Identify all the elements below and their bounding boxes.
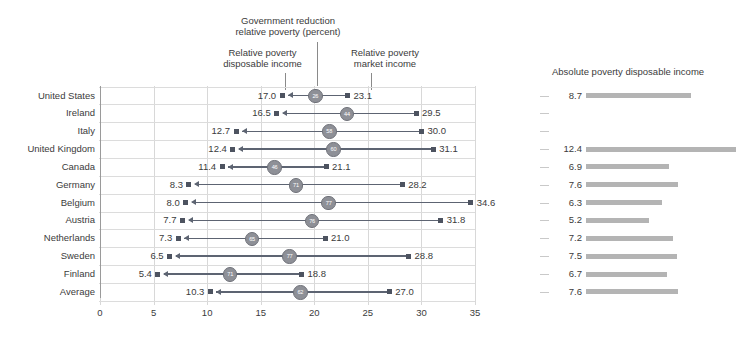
row-tick — [540, 185, 549, 186]
market-income-marker — [387, 289, 392, 294]
market-income-value: 23.1 — [354, 91, 373, 101]
row-tick — [540, 292, 549, 293]
gridline — [261, 86, 262, 305]
disposable-income-marker — [180, 218, 185, 223]
row-separator — [99, 283, 475, 284]
market-income-marker — [438, 218, 443, 223]
absolute-poverty-value: 8.7 — [556, 91, 582, 101]
absolute-poverty-value: 7.5 — [556, 251, 582, 261]
row-separator — [99, 176, 475, 177]
row-separator — [99, 229, 475, 230]
row-tick — [540, 256, 549, 257]
row-separator — [99, 301, 475, 302]
x-axis-tick-label: 30 — [409, 307, 433, 318]
market-income-value: 28.8 — [415, 251, 434, 261]
category-label: Sweden — [0, 251, 100, 261]
right-panel-title: Absolute poverty disposable income — [552, 66, 704, 77]
reduction-percent-badge: 62 — [293, 285, 308, 300]
market-income-marker — [468, 200, 473, 205]
category-label: Germany — [0, 180, 100, 190]
disposable-income-marker — [234, 129, 239, 134]
dumbbell-plot: 2617.023.14416.529.55812.730.06012.431.1… — [100, 86, 475, 298]
row-separator — [99, 104, 475, 105]
reduction-percent-badge: 71 — [289, 178, 304, 193]
reduction-percent-badge: 77 — [282, 249, 297, 264]
disposable-income-marker — [230, 147, 235, 152]
category-label: Austria — [0, 215, 100, 225]
disposable-income-value: 12.4 — [187, 144, 227, 154]
row-tick — [540, 131, 549, 132]
reduction-arrowhead — [216, 289, 221, 295]
absolute-poverty-bar — [586, 147, 736, 152]
market-income-value: 21.1 — [332, 162, 351, 172]
disposable-income-marker — [167, 254, 172, 259]
market-income-value: 30.0 — [427, 126, 446, 136]
market-income-marker — [406, 254, 411, 259]
absolute-poverty-bar — [586, 182, 678, 187]
row-tick — [540, 274, 549, 275]
absolute-poverty-bar — [586, 289, 678, 294]
gridline — [421, 86, 422, 305]
x-axis-tick-label: 35 — [463, 307, 487, 318]
reduction-percent-badge: 65 — [245, 232, 260, 247]
disposable-income-value: 12.7 — [190, 126, 230, 136]
reduction-percent-badge: 60 — [326, 142, 341, 157]
absolute-poverty-value: 6.7 — [556, 269, 582, 279]
absolute-poverty-bar — [586, 272, 667, 277]
market-income-value: 29.5 — [422, 108, 441, 118]
disposable-income-marker — [176, 236, 181, 241]
market-income-value: 18.8 — [307, 269, 326, 279]
disposable-income-marker — [274, 111, 279, 116]
row-separator — [99, 122, 475, 123]
market-income-value: 31.8 — [447, 215, 466, 225]
reduction-percent-badge: 46 — [267, 160, 282, 175]
row-separator — [99, 140, 475, 141]
row-tick — [540, 96, 549, 97]
market-income-value: 27.0 — [395, 287, 414, 297]
reduction-arrowhead — [188, 217, 193, 223]
category-label: Average — [0, 287, 100, 297]
category-label: Italy — [0, 126, 100, 136]
reduction-arrowhead — [194, 181, 199, 187]
absolute-poverty-value: 6.3 — [556, 198, 582, 208]
x-axis-tick-label: 0 — [88, 307, 112, 318]
absolute-poverty-value: 12.4 — [556, 144, 582, 154]
x-axis-tick-label: 20 — [302, 307, 326, 318]
row-tick — [540, 149, 549, 150]
absolute-poverty-bar — [586, 236, 673, 241]
disposable-income-value: 10.3 — [164, 287, 204, 297]
category-label: Canada — [0, 162, 100, 172]
gridline — [475, 86, 476, 305]
reduction-percent-badge: 58 — [322, 124, 337, 139]
category-label: Belgium — [0, 198, 100, 208]
disposable-income-value: 6.5 — [124, 251, 164, 261]
absolute-poverty-value: 7.6 — [556, 287, 582, 297]
reduction-arrowhead — [163, 271, 168, 277]
reduction-arrowhead — [191, 199, 196, 205]
annotation-center-label: Government reduction relative poverty (p… — [208, 15, 368, 37]
y-axis-line — [100, 86, 101, 298]
row-tick — [540, 167, 549, 168]
absolute-poverty-bar — [586, 254, 677, 259]
reduction-arrowhead — [288, 92, 293, 98]
disposable-income-marker — [155, 272, 160, 277]
reduction-arrowhead — [242, 128, 247, 134]
disposable-income-value: 17.0 — [236, 91, 276, 101]
disposable-income-marker — [220, 164, 225, 169]
category-label: Ireland — [0, 108, 100, 118]
reduction-percent-badge: 26 — [308, 89, 323, 104]
x-axis-tick-label: 5 — [142, 307, 166, 318]
reduction-percent-badge: 71 — [223, 267, 238, 282]
row-separator — [99, 247, 475, 248]
absolute-poverty-value: 7.2 — [556, 233, 582, 243]
absolute-poverty-panel: Absolute poverty disposable income 8.712… — [540, 60, 739, 310]
row-separator — [99, 158, 475, 159]
market-income-marker — [323, 236, 328, 241]
reduction-percent-badge: 77 — [321, 196, 336, 211]
market-income-value: 28.2 — [408, 180, 427, 190]
market-income-value: 34.6 — [477, 198, 496, 208]
disposable-income-value: 11.4 — [176, 162, 216, 172]
category-label: United Kingdom — [0, 144, 100, 154]
row-tick — [540, 220, 549, 221]
x-axis-tick-label: 25 — [356, 307, 380, 318]
